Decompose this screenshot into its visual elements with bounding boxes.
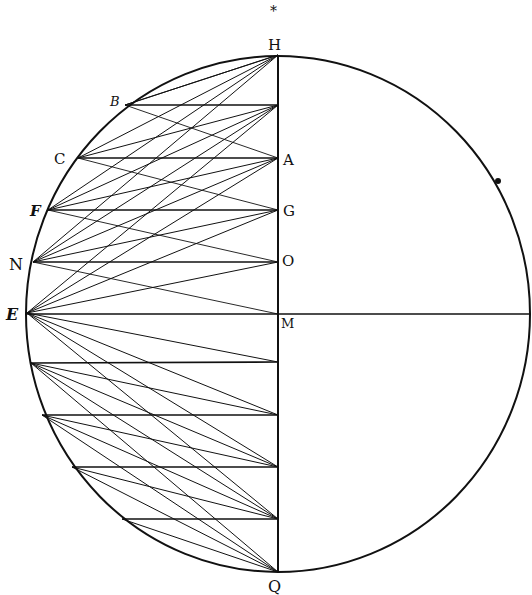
- circle-marker-dot: [495, 178, 501, 184]
- label-A: A: [282, 151, 294, 169]
- fan-line: [33, 105, 278, 262]
- fan-line: [27, 313, 278, 467]
- fan-line: [78, 158, 278, 210]
- label-E: E: [5, 305, 19, 324]
- fan-line: [33, 210, 278, 262]
- top-asterisk-mark: *: [270, 3, 277, 19]
- label-C: C: [54, 150, 65, 168]
- fan-line: [31, 363, 278, 519]
- label-G: G: [283, 202, 295, 220]
- fan-line: [42, 415, 278, 572]
- fan-line: [31, 363, 278, 415]
- fan-line: [78, 105, 278, 158]
- fan-line: [125, 105, 278, 158]
- label-O: O: [282, 252, 294, 270]
- label-N: N: [9, 255, 23, 274]
- fan-line: [78, 55, 278, 158]
- label-H: H: [268, 36, 281, 54]
- label-M: M: [281, 316, 294, 331]
- fan-line: [48, 158, 278, 210]
- fan-line: [48, 55, 278, 210]
- fan-line: [125, 55, 278, 105]
- fan-line: [122, 519, 278, 572]
- fan-line: [27, 313, 278, 415]
- fan-line: [27, 313, 278, 362]
- geometric-diagram: * H B C A F G N O E M Q: [0, 0, 532, 595]
- label-Q: Q: [268, 577, 281, 595]
- label-B: B: [109, 94, 120, 109]
- label-F: F: [29, 202, 42, 220]
- horizontal-chord: [31, 362, 278, 363]
- fan-line: [27, 105, 278, 313]
